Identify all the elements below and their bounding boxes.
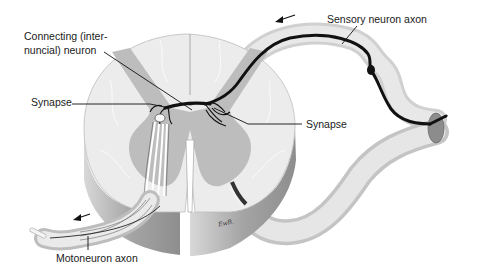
motor-neuron-body	[155, 114, 165, 122]
reflex-arc-diagram: Connecting (inter- nuncial) neuron Synap…	[0, 0, 478, 273]
sensory-direction-arrow-icon	[275, 15, 295, 23]
label-connecting-neuron-line1: Connecting (inter-	[24, 30, 107, 43]
label-synapse-left: Synapse	[31, 96, 72, 109]
motor-direction-arrow-icon	[73, 214, 90, 221]
anterior-median-fissure	[186, 140, 194, 212]
label-connecting-neuron-line2: nuncial) neuron	[24, 44, 96, 57]
label-motoneuron-axon: Motoneuron axon	[56, 252, 138, 265]
label-synapse-right: Synapse	[306, 118, 347, 131]
sensory-ganglion-cell	[367, 65, 375, 75]
label-sensory-neuron-axon: Sensory neuron axon	[327, 13, 427, 26]
